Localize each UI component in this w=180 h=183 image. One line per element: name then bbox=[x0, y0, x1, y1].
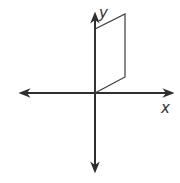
y-axis-label: y bbox=[98, 4, 109, 22]
x-axis-label: x bbox=[160, 99, 170, 117]
parallelogram bbox=[95, 14, 125, 93]
coordinate-diagram: y x bbox=[0, 0, 180, 183]
